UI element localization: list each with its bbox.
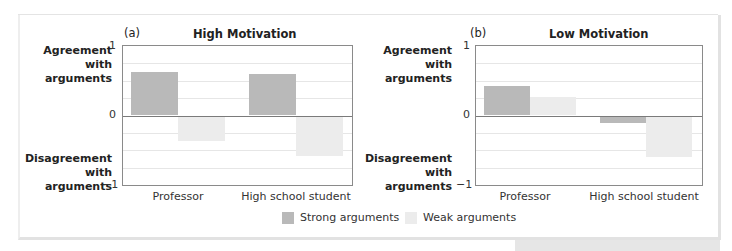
plot-area	[122, 45, 353, 186]
bar-weak	[646, 116, 692, 158]
bar-strong	[249, 74, 296, 116]
y-label-disagreement: Disagreement with arguments	[2, 152, 112, 194]
y-tick-1: 1	[456, 39, 470, 52]
x-label-professor: Professor	[465, 190, 585, 203]
gridline	[123, 168, 352, 169]
gridline	[123, 63, 352, 64]
bar-weak	[296, 116, 343, 156]
zero-line	[476, 116, 702, 117]
bar-weak	[178, 116, 225, 142]
panel-tag: (a)	[124, 26, 140, 40]
y-label-disagreement: Disagreement with arguments	[342, 152, 452, 194]
gridline	[476, 168, 702, 169]
gridline	[476, 81, 702, 82]
panel-title: Low Motivation	[549, 27, 648, 41]
legend-swatch-weak	[405, 212, 417, 224]
x-label-professor: Professor	[118, 190, 238, 203]
y-tick-0: 0	[456, 108, 470, 121]
bar-weak	[530, 97, 576, 115]
legend-label-weak: Weak arguments	[423, 211, 516, 224]
x-label-high-school-student: High school student	[236, 190, 356, 203]
x-label-high-school-student: High school student	[584, 190, 704, 203]
y-tick-0: 0	[102, 108, 116, 121]
panel-title: High Motivation	[193, 27, 297, 41]
plot-area	[475, 45, 703, 186]
legend-label-strong: Strong arguments	[300, 211, 399, 224]
panel-tag: (b)	[470, 26, 486, 40]
y-tick-1: 1	[102, 39, 116, 52]
gridline	[476, 63, 702, 64]
y-label-agreement: Agreement with arguments	[2, 44, 112, 86]
page-edge-strip	[515, 240, 720, 251]
y-label-agreement: Agreement with arguments	[342, 44, 452, 86]
zero-line	[123, 116, 352, 117]
y-tick-minus-1: −1	[102, 178, 116, 191]
legend: Strong arguments Weak arguments	[0, 210, 732, 226]
legend-swatch-strong	[282, 212, 294, 224]
bar-strong	[131, 72, 178, 116]
bar-strong	[484, 86, 530, 116]
